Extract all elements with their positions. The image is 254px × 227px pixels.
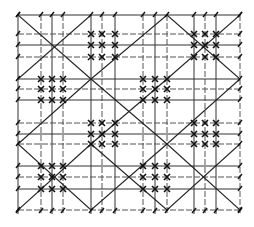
cross-mark-cluster xyxy=(191,120,219,147)
cross-mark-cluster xyxy=(88,31,118,60)
cross-mark-cluster xyxy=(38,76,66,103)
cross-mark-cluster xyxy=(88,120,118,147)
lattice-diagram xyxy=(0,0,254,227)
cross-mark-cluster xyxy=(140,76,170,103)
